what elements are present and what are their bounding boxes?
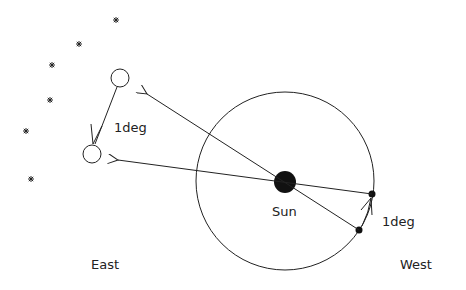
star-icons — [23, 17, 119, 182]
orbit-degree-label: 1deg — [382, 215, 415, 228]
sun-label: Sun — [272, 205, 297, 218]
star-icon — [28, 176, 34, 182]
star-icon — [76, 41, 82, 47]
diagram-graphic — [0, 0, 466, 290]
sight-line-1 — [147, 94, 359, 230]
east-label: East — [91, 258, 119, 271]
star-icon — [113, 17, 119, 23]
sky-shift-arrow — [95, 87, 117, 144]
sky-degree-label: 1deg — [114, 121, 147, 134]
star-icon — [49, 62, 55, 68]
apparent-position-1 — [111, 69, 129, 87]
apparent-position-2 — [83, 145, 101, 163]
orbit-shift-arrow — [362, 198, 371, 226]
star-icon — [23, 128, 29, 134]
diagram: Sun 1deg 1deg East West — [0, 0, 466, 290]
sight-line-2 — [118, 160, 372, 194]
star-icon — [47, 97, 53, 103]
west-label: West — [400, 258, 432, 271]
